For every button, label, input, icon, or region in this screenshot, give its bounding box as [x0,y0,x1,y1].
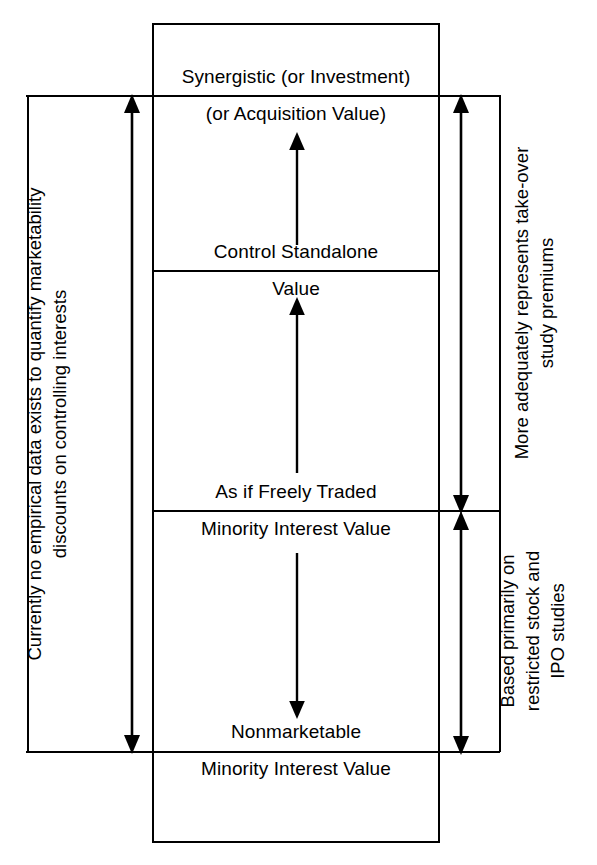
control-premium-up-arrow [281,130,313,245]
right-upper-span-double-arrow [446,92,476,516]
separator-line-control-standalone [152,270,440,272]
right-lower-span-double-arrow [446,509,476,757]
tier-label-freely-traded-line1: As if Freely Traded [152,480,440,504]
tier-label-nonmarketable-line2: Minority Interest Value [152,757,440,781]
tier-label-synergistic-line1: Synergistic (or Investment) [152,65,440,89]
tier-label-nonmarketable-line1: Nonmarketable [152,720,440,744]
separator-line-nonmarketable [26,751,500,753]
right-upper-annotation-text: More adequately represents take-over stu… [509,98,565,508]
right-annotation-rule-upper [499,95,501,511]
left-span-double-arrow [117,92,147,756]
levels-of-value-diagram: Synergistic (or Investment) (or Acquisit… [0,0,597,865]
tier-label-synergistic-line2: (or Acquisition Value) [152,102,440,126]
minority-interest-discount-up-arrow [281,295,313,473]
marketability-discount-down-arrow [281,553,313,721]
tier-label-freely-traded-line2: Minority Interest Value [152,517,440,541]
separator-line-synergistic [26,95,500,97]
right-lower-annotation-text: Based primarily on restricted stock and … [495,517,577,745]
left-annotation-text: Currently no empirical data exists to qu… [22,99,78,749]
